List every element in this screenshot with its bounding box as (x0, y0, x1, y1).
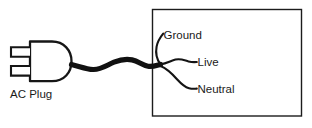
label-live: Live (198, 56, 219, 68)
label-ground: Ground (164, 29, 202, 41)
label-ac-plug: AC Plug (10, 88, 52, 100)
wiring-diagram-svg: AC Plug Ground Live Neutral (0, 0, 312, 128)
label-neutral: Neutral (198, 83, 235, 95)
plug-body (30, 42, 72, 82)
plug-prong-lower (11, 66, 30, 76)
plug-prong-upper (11, 47, 30, 57)
wiring-diagram-canvas: AC Plug Ground Live Neutral (0, 0, 312, 128)
power-cable (72, 59, 161, 69)
equipment-enclosure-rect (153, 10, 302, 117)
